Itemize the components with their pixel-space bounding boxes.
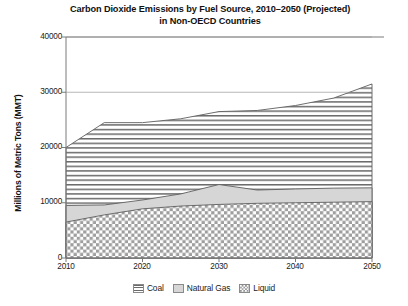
- chart-legend: Coal Natural Gas Liquid: [0, 283, 408, 293]
- legend-swatch-liquid-icon: [239, 284, 250, 293]
- legend-label-coal: Coal: [147, 283, 164, 293]
- legend-item-liquid: Liquid: [239, 283, 275, 293]
- legend-label-liquid: Liquid: [253, 283, 275, 293]
- chart-container: Carbon Dioxide Emissions by Fuel Source,…: [0, 0, 408, 306]
- legend-item-coal: Coal: [133, 283, 164, 293]
- legend-label-natural-gas: Natural Gas: [187, 283, 231, 293]
- legend-item-natural-gas: Natural Gas: [173, 283, 231, 293]
- legend-swatch-coal-icon: [133, 284, 144, 293]
- plot-area: [0, 0, 408, 306]
- stacked-areas: [66, 84, 372, 258]
- legend-swatch-natural-gas-icon: [173, 284, 184, 293]
